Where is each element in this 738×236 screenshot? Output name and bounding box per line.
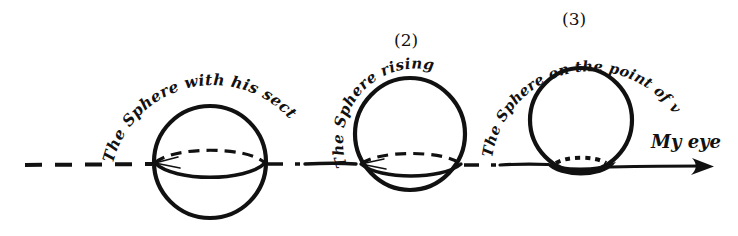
stage-3-number: (3) [562,9,586,29]
stage-1-caption: The Sphere with his section at full Size [0,0,301,165]
sphere-3-section-dashes [556,158,606,163]
baseline-solid-mid-2 [500,164,548,165]
figure-canvas: The Sphere with his section at full Size… [0,0,738,236]
my-eye-label: My eye [650,131,721,152]
baseline-dashed-left [25,164,152,165]
stage-1-group: The Sphere with his section at full Size [0,0,301,218]
baseline-solid-right [610,166,704,167]
sphere-1-section-back [155,150,265,163]
sphere-1-outline [154,106,266,218]
stage-2-group: (2) The Sphere rising [329,30,465,190]
sphere-1-section-front [155,163,265,177]
stage-2-number: (2) [394,30,418,50]
sphere-diagram-svg: The Sphere with his section at full Size… [0,0,738,236]
sphere-2-outline [355,78,465,190]
sphere-2-section-back [361,154,461,165]
